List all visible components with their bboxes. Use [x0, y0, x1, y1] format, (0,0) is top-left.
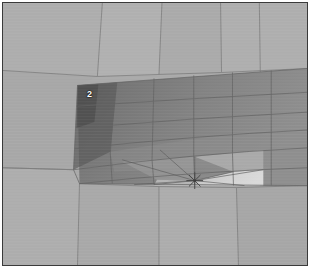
viewport-canvas[interactable] [3, 3, 307, 265]
texture-overlay [3, 3, 307, 265]
viewport-frame[interactable]: 2 [2, 2, 308, 266]
app-root: 2 [0, 0, 316, 276]
